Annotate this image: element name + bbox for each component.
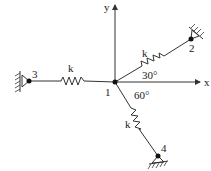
angle-30-label: 30° [142,69,157,81]
spring-1-3-label: k [68,62,74,74]
node-1-label: 1 [105,86,111,98]
node-2-label: 2 [189,42,195,54]
node-4-dot [156,154,161,159]
node-3-label: 3 [32,68,38,80]
node-2-dot [189,37,194,42]
spring-1-3 [29,77,115,85]
node-4-label: 4 [161,142,167,154]
x-axis-label: x [204,76,210,88]
node-1-dot [113,80,118,85]
node-3-dot [27,79,32,84]
angle-60-label: 60° [134,89,149,101]
spring-system-diagram: y x k k 30° k 60° 1 3 [0,0,211,171]
spring-1-4-label: k [125,118,131,130]
spring-1-2-label: k [142,47,148,59]
y-axis-label: y [104,1,110,13]
